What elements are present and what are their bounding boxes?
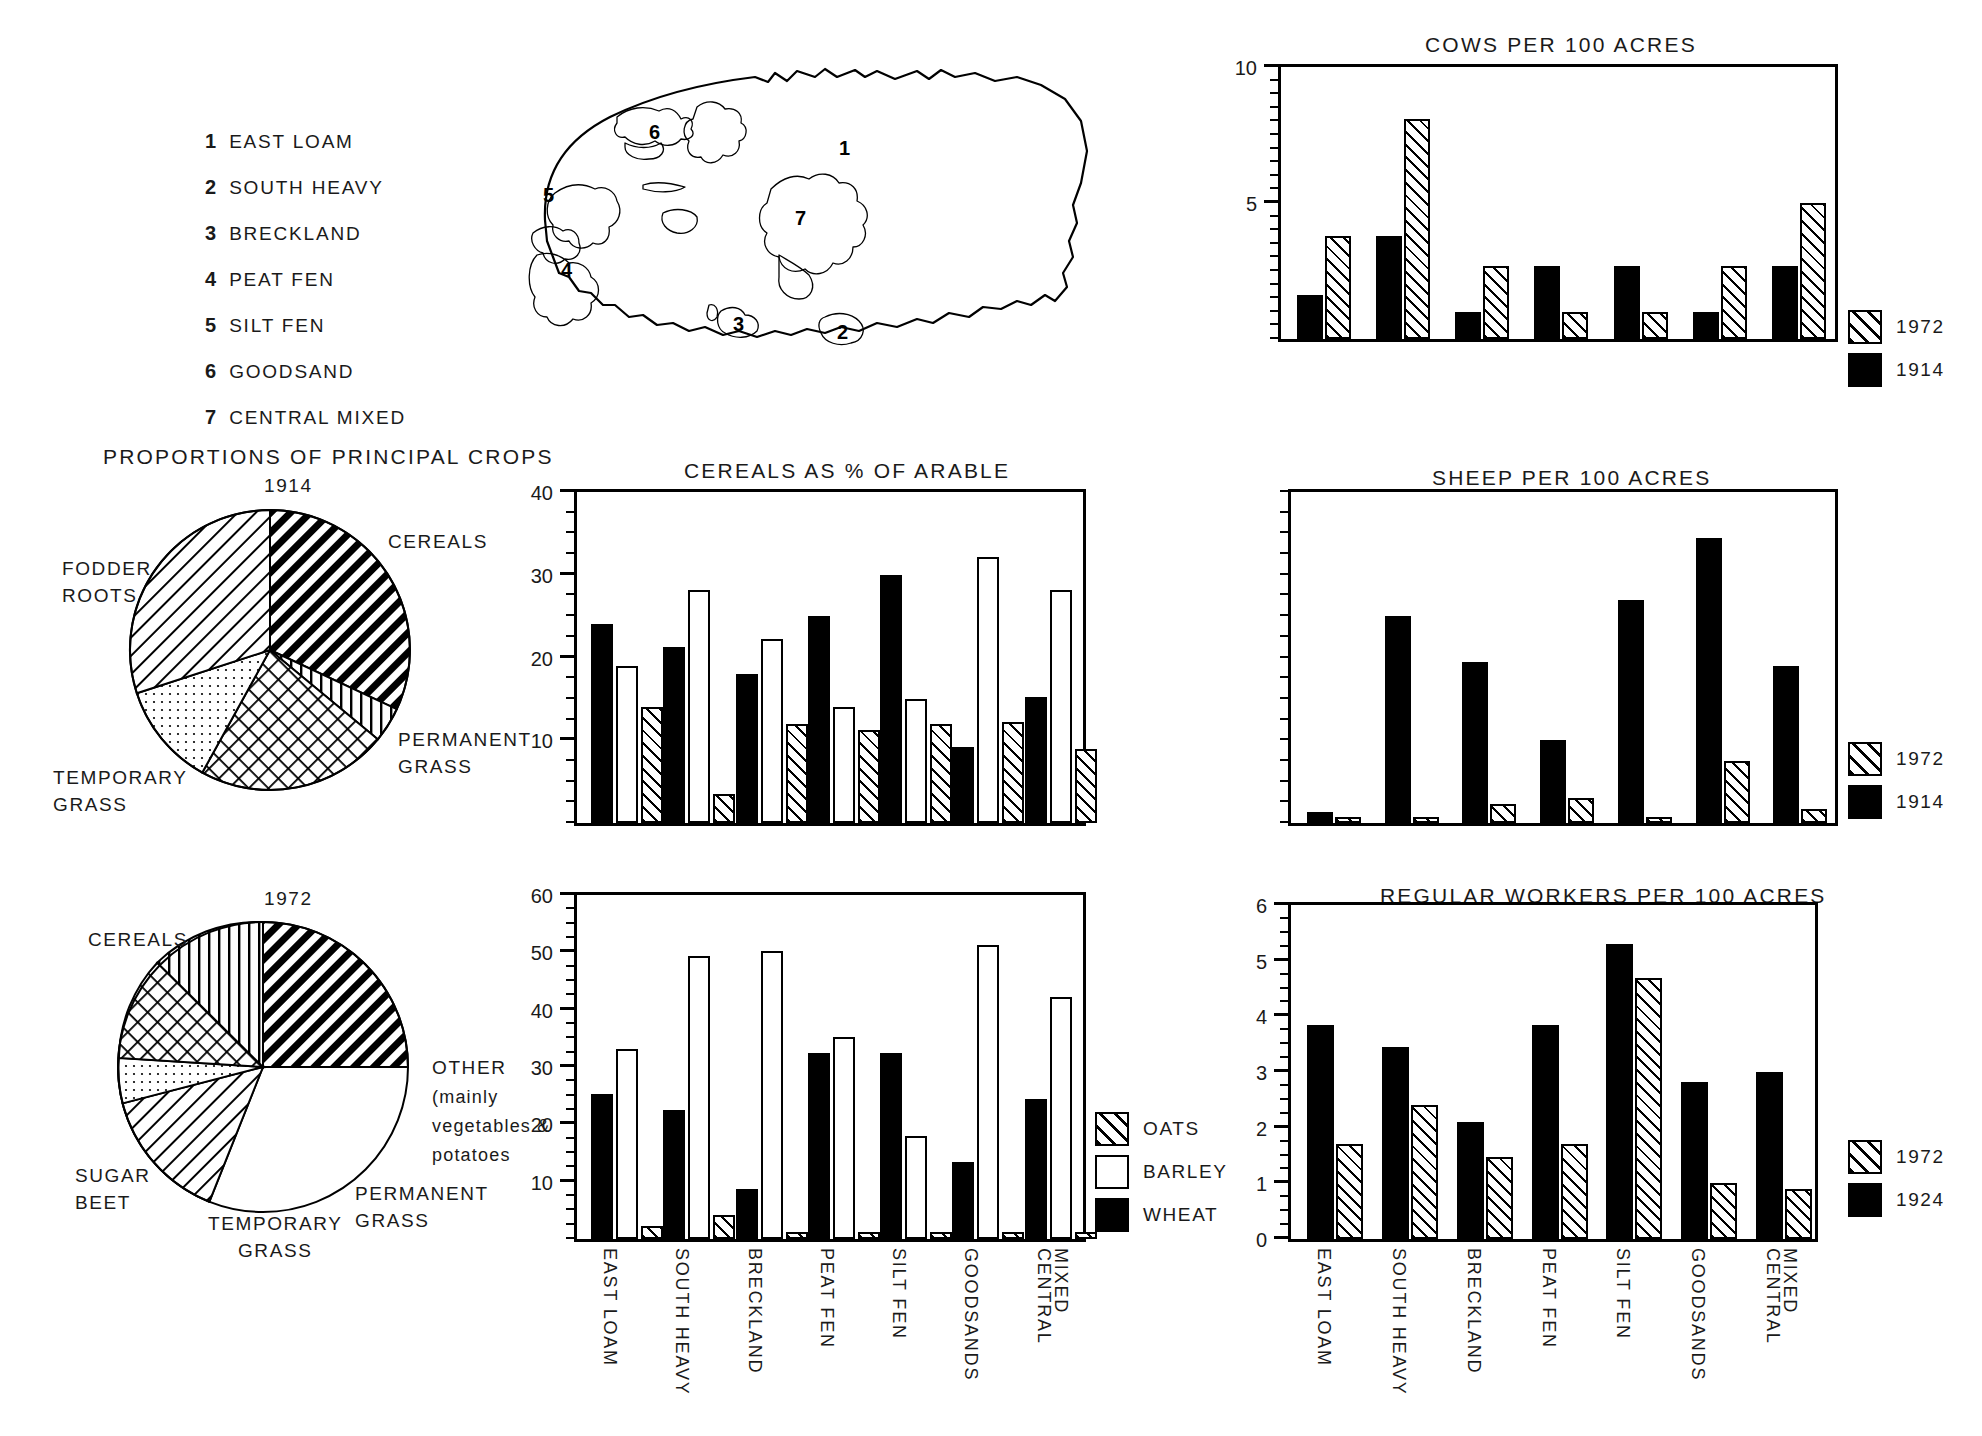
bar-1914-east-loam	[1307, 812, 1333, 823]
bar-1972-peat-fen	[1568, 798, 1594, 823]
bar-1972-east-loam	[1336, 1144, 1363, 1239]
map-label-1: 1	[839, 137, 850, 159]
key-label: SILT FEN	[229, 315, 325, 337]
perm-grass72-line-2: GRASS	[355, 1210, 430, 1231]
y-tick-minor	[1280, 490, 1291, 492]
y-tick-minor	[1280, 635, 1291, 637]
bar-barley-peat-fen	[833, 707, 855, 823]
sheep-legend-label-1972: 1972	[1896, 748, 1945, 770]
y-tick-minor	[1280, 593, 1291, 595]
bar-barley-south-heavy	[688, 590, 710, 823]
x-axis-label: PEAT FEN	[1538, 1248, 1559, 1349]
bar-oats-goodsands	[1002, 1232, 1024, 1239]
y-tick-minor	[1270, 119, 1281, 121]
y-tick-major	[560, 949, 577, 952]
key-item: 7 CENTRAL MIXED	[205, 406, 406, 429]
other-line-2: (mainly	[432, 1087, 498, 1107]
bar-oats-peat-fen	[858, 1232, 880, 1239]
y-tick-minor	[1280, 1223, 1291, 1225]
bar-barley-silt-fen	[905, 1136, 927, 1239]
key-item: 1 EAST LOAM	[205, 130, 406, 153]
bar-oats-breckland	[786, 1232, 808, 1239]
bar-1972-goodsands	[1710, 1183, 1737, 1239]
key-number: 4	[205, 268, 216, 291]
bar-oats-silt-fen	[930, 724, 952, 823]
map-label-5: 5	[543, 184, 554, 206]
x-axis-label: BRECKLAND	[744, 1248, 765, 1374]
y-tick-minor	[566, 511, 577, 513]
y-tick-minor	[566, 1151, 577, 1153]
y-tick-minor	[1270, 133, 1281, 135]
legend-item-wheat: WHEAT	[1095, 1198, 1228, 1232]
temp-grass-line-1: TEMPORARY	[53, 767, 187, 788]
black-swatch-icon	[1848, 1183, 1882, 1217]
y-tick-minor	[1280, 552, 1291, 554]
legend-label-barley: BARLEY	[1143, 1161, 1228, 1183]
y-tick-minor	[1280, 931, 1291, 933]
y-tick-major	[560, 655, 577, 658]
y-tick-minor	[1280, 511, 1291, 513]
bar-barley-silt-fen	[905, 699, 927, 823]
y-tick-minor	[566, 531, 577, 533]
bar-1972-breckland	[1486, 1157, 1513, 1239]
bar-1972-east-loam	[1325, 236, 1351, 339]
y-tick-minor	[1280, 738, 1291, 740]
y-tick-minor	[1280, 759, 1291, 761]
y-tick-minor	[1270, 106, 1281, 108]
workers-legend: 1972 1924	[1848, 1140, 1945, 1226]
y-tick-minor	[1280, 1042, 1291, 1044]
x-axis-label: BRECKLAND	[1463, 1248, 1484, 1374]
key-label: GOODSAND	[229, 361, 354, 383]
y-tick-major	[1264, 200, 1281, 203]
y-tick-minor	[1280, 973, 1291, 975]
bar-wheat-breckland	[736, 674, 758, 823]
bar-1924-silt-fen	[1606, 944, 1633, 1239]
bar-1914-silt-fen	[1618, 600, 1644, 823]
bar-oats-east-loam	[641, 707, 663, 823]
y-tick-minor	[1280, 531, 1291, 533]
cows-bars	[1281, 67, 1835, 339]
cereals-1972-bars	[577, 895, 1083, 1239]
key-number: 3	[205, 222, 216, 245]
pie-1972-label-temporary-grass: TEMPORARY GRASS	[208, 1210, 342, 1264]
key-item: 3 BRECKLAND	[205, 222, 406, 245]
y-tick-minor	[566, 614, 577, 616]
y-tick-minor	[1280, 1209, 1291, 1211]
sheep-legend-item-1914: 1914	[1848, 785, 1945, 819]
bar-barley-peat-fen	[833, 1037, 855, 1239]
y-tick-label: 50	[503, 942, 553, 965]
bar-wheat-goodsands	[952, 1162, 974, 1239]
fodder-line-2: ROOTS	[62, 585, 138, 606]
y-tick-minor	[566, 1094, 577, 1096]
y-tick-major	[560, 572, 577, 575]
workers-legend-item-1924: 1924	[1848, 1183, 1945, 1217]
cows-title: COWS PER 100 ACRES	[1425, 33, 1697, 57]
pie-1914-svg	[120, 500, 420, 800]
y-tick-label: 6	[1217, 895, 1267, 918]
y-tick-minor	[1270, 255, 1281, 257]
y-tick-minor	[1270, 323, 1281, 325]
y-tick-major	[560, 489, 577, 492]
bar-1972-goodsands	[1721, 266, 1747, 339]
map-outline-svg: 1 2 3 4 5 6 7	[525, 55, 1105, 355]
y-tick-minor	[566, 780, 577, 782]
bar-1914-central-mixed	[1772, 266, 1798, 339]
bar-1924-central-mixed	[1756, 1072, 1783, 1239]
workers-bars	[1291, 905, 1815, 1239]
bar-1914-silt-fen	[1614, 266, 1640, 339]
y-tick-label: 60	[503, 885, 553, 908]
hatch-swatch-icon	[1848, 1140, 1882, 1174]
x-axis-label: SOUTH HEAVY	[671, 1248, 692, 1396]
y-tick-minor	[1270, 269, 1281, 271]
bar-1914-east-loam	[1297, 295, 1323, 339]
pie-1972-label-sugar-beet: SUGAR BEET	[75, 1162, 151, 1216]
y-tick-major	[560, 1121, 577, 1124]
y-tick-minor	[566, 800, 577, 802]
y-tick-minor	[1280, 1112, 1291, 1114]
y-tick-minor	[1280, 917, 1291, 919]
bar-wheat-breckland	[736, 1189, 758, 1239]
y-tick-major	[1274, 1125, 1291, 1128]
sheep-legend: 1972 1914	[1848, 742, 1945, 828]
temp-grass-line-2: GRASS	[53, 794, 128, 815]
bar-1972-central-mixed	[1801, 809, 1827, 823]
